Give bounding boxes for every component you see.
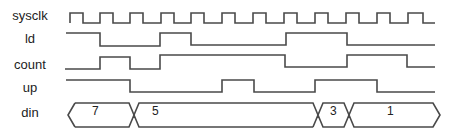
din-value-5: 5	[152, 104, 159, 118]
waveforms	[0, 0, 455, 140]
waveform-sysclk	[70, 13, 435, 23]
waveform-up	[66, 80, 435, 92]
waveform-ld	[66, 33, 435, 46]
waveform-din-bus	[68, 103, 440, 127]
waveform-count	[65, 55, 435, 69]
din-value-3: 3	[330, 104, 337, 118]
din-value-7: 7	[92, 104, 99, 118]
timing-diagram: sysclk ld count up din 7 5 3 1	[0, 0, 455, 140]
din-value-1: 1	[387, 104, 394, 118]
